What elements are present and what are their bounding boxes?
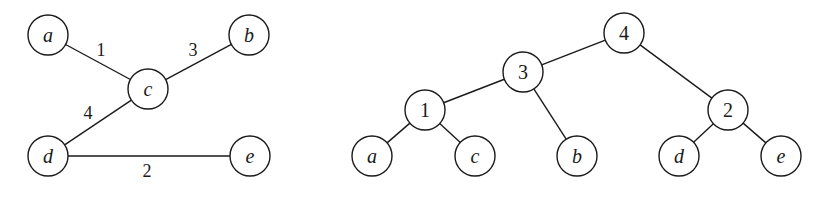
tree-edge-t1-ta — [387, 123, 410, 143]
graph-edge-c-d — [65, 100, 132, 145]
graph-node-a: a — [28, 15, 68, 55]
graph-edge-weight: 3 — [189, 40, 198, 60]
tree-edge-t2-te — [743, 123, 766, 143]
node-label: a — [43, 24, 53, 46]
tree-edge-t3-t1 — [444, 79, 505, 103]
diagram-canvas: 1342 abcde 4312acbde — [0, 0, 833, 199]
node-label: 3 — [518, 61, 528, 83]
node-label: c — [144, 78, 153, 100]
node-label: 1 — [420, 99, 430, 121]
graph-node-c: c — [128, 69, 168, 109]
node-label: d — [674, 145, 685, 167]
tree-node-4: 4 — [604, 13, 644, 53]
tree-node-b: b — [557, 136, 597, 176]
node-label: e — [777, 145, 786, 167]
graph-node-d: d — [28, 136, 68, 176]
tree-edge-t2-td — [694, 124, 714, 143]
tree-node-a: a — [352, 136, 392, 176]
tree-edge-t4-t2 — [640, 45, 712, 98]
graph-edge-weight: 4 — [84, 103, 93, 123]
tree-edge-t4-t3 — [542, 40, 606, 65]
node-label: e — [246, 145, 255, 167]
tree-nodes: 4312acbde — [352, 13, 801, 176]
graph-edge-weight: 1 — [97, 40, 106, 60]
node-label: c — [471, 145, 480, 167]
tree-node-1: 1 — [405, 90, 445, 130]
weighted-graph-nodes: abcde — [28, 15, 270, 176]
graph-node-b: b — [229, 15, 269, 55]
node-label: 2 — [723, 99, 733, 121]
tree-edges — [387, 40, 766, 143]
tree-node-d: d — [659, 136, 699, 176]
graph-node-e: e — [230, 136, 270, 176]
tree-edge-t1-tc — [440, 124, 461, 143]
tree-node-3: 3 — [503, 52, 543, 92]
node-label: b — [572, 145, 582, 167]
weighted-graph-edge-labels: 1342 — [84, 40, 198, 181]
graph-edge-weight: 2 — [143, 161, 152, 181]
node-label: a — [367, 145, 377, 167]
tree-node-2: 2 — [708, 90, 748, 130]
node-label: d — [43, 145, 54, 167]
graph-edge-c-b — [166, 44, 232, 79]
tree-node-c: c — [455, 136, 495, 176]
node-label: b — [244, 24, 254, 46]
node-label: 4 — [619, 22, 629, 44]
tree-edge-t3-tb — [534, 89, 566, 139]
tree-node-e: e — [761, 136, 801, 176]
